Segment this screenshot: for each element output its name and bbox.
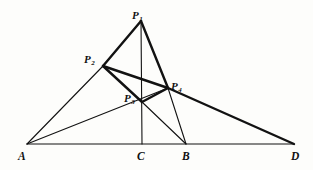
label-C-base: C <box>137 150 145 162</box>
label-P1: P1 <box>132 6 143 23</box>
segment-group <box>27 21 294 144</box>
edge-P1-P4 <box>141 21 168 88</box>
label-P2-base: P <box>84 53 91 65</box>
label-P2: P2 <box>84 50 95 67</box>
label-P2-sub: 2 <box>91 59 95 67</box>
label-A: A <box>18 147 26 163</box>
label-P3: P3 <box>124 89 135 106</box>
label-P4-base: P <box>171 80 178 92</box>
label-P1-base: P <box>132 9 139 21</box>
label-C: C <box>137 147 145 163</box>
edge-P2-P4 <box>103 66 168 88</box>
label-P4: P4 <box>171 77 182 94</box>
label-B: B <box>182 147 190 163</box>
label-A-base: A <box>18 150 26 162</box>
label-P3-base: P <box>124 92 131 104</box>
geometry-canvas <box>0 0 313 170</box>
label-P3-sub: 3 <box>131 98 135 106</box>
label-P4-sub: 4 <box>178 86 182 94</box>
geometry-figure: P1 P2 P3 P4 A C B D <box>0 0 313 170</box>
label-B-base: B <box>182 150 190 162</box>
cevian-A-P4 <box>27 88 168 144</box>
edge-P1-P2 <box>103 21 141 66</box>
label-P1-sub: 1 <box>139 15 143 23</box>
altitude-C-P1 <box>141 21 142 144</box>
label-D: D <box>291 147 299 163</box>
edge-A-P2 <box>27 66 103 144</box>
label-D-base: D <box>291 150 299 162</box>
edge-P4-D <box>168 88 294 144</box>
